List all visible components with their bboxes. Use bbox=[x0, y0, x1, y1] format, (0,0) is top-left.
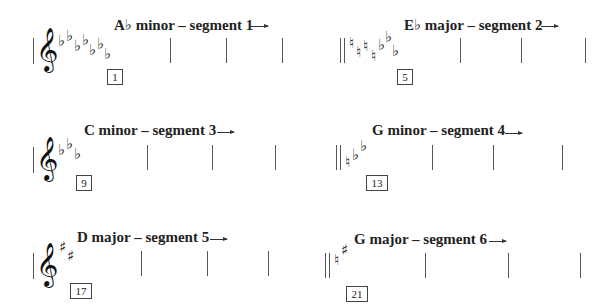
segment-title: E♭ major – segment 2 bbox=[404, 16, 542, 34]
arrow-right-icon bbox=[505, 133, 522, 134]
flat-icon: ♭ bbox=[58, 143, 65, 158]
barline bbox=[460, 38, 461, 63]
barline bbox=[207, 251, 208, 276]
barline bbox=[562, 145, 563, 170]
double-barline bbox=[329, 253, 330, 278]
flat-icon: ♭ bbox=[74, 147, 81, 162]
sharp-icon: ♯ bbox=[59, 240, 66, 255]
arrow-right-icon bbox=[541, 26, 558, 27]
treble-clef-icon: 𝄞 bbox=[36, 30, 58, 68]
treble-clef-icon: 𝄞 bbox=[36, 245, 58, 283]
segment-title: A♭ minor – segment 1 bbox=[114, 16, 253, 34]
flat-icon: ♭ bbox=[58, 34, 65, 49]
flat-icon: ♭ bbox=[74, 39, 81, 54]
natural-icon: ♮ bbox=[371, 49, 376, 64]
barline bbox=[521, 38, 522, 63]
start-barline bbox=[33, 147, 34, 173]
barline bbox=[147, 145, 148, 170]
barline bbox=[580, 253, 581, 278]
double-barline bbox=[340, 145, 341, 170]
segment-title: G major – segment 6 bbox=[354, 231, 487, 248]
barline bbox=[282, 38, 283, 63]
double-barline bbox=[340, 38, 341, 63]
start-barline bbox=[33, 38, 34, 64]
measure-number: 17 bbox=[70, 283, 92, 299]
measure-number: 21 bbox=[346, 286, 368, 302]
treble-clef-icon: 𝄞 bbox=[36, 139, 58, 177]
measure-number: 13 bbox=[366, 175, 388, 191]
measure-number: 9 bbox=[76, 175, 92, 191]
flat-icon: ♭ bbox=[89, 43, 96, 58]
barline bbox=[226, 38, 227, 63]
flat-icon: ♭ bbox=[66, 29, 73, 44]
sharp-icon: ♯ bbox=[67, 249, 74, 264]
barline bbox=[585, 38, 586, 63]
natural-icon: ♮ bbox=[363, 39, 368, 54]
flat-icon: ♭ bbox=[66, 137, 73, 152]
arrow-right-icon bbox=[217, 132, 234, 133]
measure-number: 1 bbox=[107, 69, 123, 85]
double-barline bbox=[344, 38, 345, 63]
double-barline bbox=[325, 253, 326, 278]
barline bbox=[268, 251, 269, 276]
segment-title: C minor – segment 3 bbox=[84, 122, 216, 139]
barline bbox=[508, 253, 509, 278]
natural-icon: ♮ bbox=[349, 36, 354, 51]
flat-icon: ♭ bbox=[392, 44, 399, 59]
barline bbox=[170, 38, 171, 63]
barline bbox=[212, 145, 213, 170]
barline bbox=[275, 145, 276, 170]
measure-number: 5 bbox=[397, 69, 413, 85]
flat-icon: ♭ bbox=[352, 148, 359, 163]
barline bbox=[425, 253, 426, 278]
arrow-right-icon bbox=[489, 241, 506, 242]
barline bbox=[141, 251, 142, 276]
arrow-right-icon bbox=[210, 239, 227, 240]
arrow-right-icon bbox=[251, 26, 268, 27]
segment-title: G minor – segment 4 bbox=[372, 122, 505, 139]
segment-title: D major – segment 5 bbox=[77, 229, 209, 246]
natural-icon: ♮ bbox=[334, 253, 339, 268]
double-barline bbox=[336, 145, 337, 170]
sharp-icon: ♯ bbox=[341, 243, 348, 258]
natural-icon: ♮ bbox=[345, 155, 350, 170]
start-barline bbox=[33, 253, 34, 279]
barline bbox=[493, 145, 494, 170]
natural-icon: ♮ bbox=[356, 45, 361, 60]
barline bbox=[432, 145, 433, 170]
flat-icon: ♭ bbox=[104, 47, 111, 62]
flat-icon: ♭ bbox=[360, 139, 367, 154]
